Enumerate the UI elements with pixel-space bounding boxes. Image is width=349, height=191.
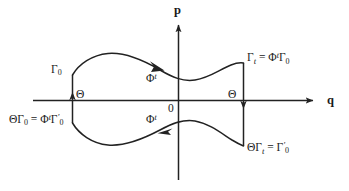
phi-superscript-topright: t <box>277 51 279 60</box>
theta-left-label: Θ <box>76 89 84 101</box>
gamma-zero-subscript-topright: 0 <box>286 57 290 66</box>
phi-superscript-bottomleft: t <box>49 113 51 122</box>
phi-flow-lower-label: Φt <box>146 114 157 126</box>
gamma-zero-subscript: 0 <box>58 68 62 77</box>
gamma-prime-subscript-bottomright: 0 <box>285 146 289 155</box>
lower-flow-curve <box>73 121 244 146</box>
right-vertical-connector <box>240 63 247 146</box>
phi-flow-upper-label: Φt <box>146 73 157 85</box>
phi-upper-superscript: t <box>154 72 156 81</box>
gamma-t-equation-label: Γt = ΦtΓ0 <box>247 52 290 66</box>
phi-lower-superscript: t <box>154 113 156 122</box>
theta-gamma-zero-equation-label: ΘΓ0 = ΦtΓ′0 <box>9 113 63 127</box>
upper-flow-curve <box>73 53 244 80</box>
theta-gamma-zero-subscript: 0 <box>24 118 28 127</box>
theta-gamma-t-subscript: t <box>262 146 264 156</box>
q-axis-label: q <box>327 94 334 107</box>
phase-space-diagram-figure: p q 0 Γ0 Θ Θ Φt Φt Γt = ΦtΓ0 ΘΓ0 = ΦtΓ′0… <box>0 0 349 191</box>
gamma-t-subscript: t <box>254 56 256 66</box>
gamma-zero-label: Γ0 <box>51 64 62 77</box>
left-vertical-connector <box>69 75 76 123</box>
gamma-prime-subscript-bottomleft: 0 <box>59 118 63 127</box>
theta-gamma-t-equation-label: ΘΓt = Γ′0 <box>247 141 289 155</box>
origin-label: 0 <box>168 103 174 115</box>
p-axis-label: p <box>174 4 181 17</box>
diagram-canvas <box>0 0 349 191</box>
theta-right-label: Θ <box>228 89 236 101</box>
upper-curve-flow-arrow <box>150 61 165 72</box>
